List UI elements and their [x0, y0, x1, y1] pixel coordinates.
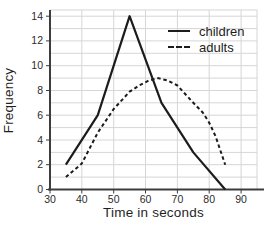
frequency-polygon-chart: 3040506070809002468101214 Frequency Time…: [0, 0, 267, 227]
x-tick-label: 60: [140, 193, 152, 205]
legend-item-children: children: [168, 23, 245, 39]
legend: children adults: [168, 23, 245, 55]
y-tick-label: 14: [31, 10, 43, 22]
dashed-line-icon: [168, 46, 190, 48]
y-tick-label: 6: [37, 109, 43, 121]
y-tick-label: 8: [37, 84, 43, 96]
y-tick-label: 12: [31, 34, 43, 46]
y-tick-label: 0: [37, 183, 43, 195]
legend-item-adults: adults: [168, 39, 245, 55]
legend-label-children: children: [199, 25, 245, 38]
x-tick-label: 30: [44, 193, 56, 205]
solid-line-icon: [168, 30, 190, 32]
y-tick-label: 10: [31, 59, 43, 71]
legend-label-adults: adults: [199, 41, 234, 54]
x-tick-label: 90: [235, 193, 247, 205]
x-tick-label: 40: [76, 193, 88, 205]
x-tick-label: 80: [203, 193, 215, 205]
x-axis-label: Time in seconds: [0, 205, 267, 220]
x-tick-label: 50: [108, 193, 120, 205]
x-tick-label: 70: [172, 193, 184, 205]
y-tick-label: 4: [37, 134, 43, 146]
y-tick-label: 2: [37, 158, 43, 170]
y-axis-label: Frequency: [1, 56, 16, 146]
